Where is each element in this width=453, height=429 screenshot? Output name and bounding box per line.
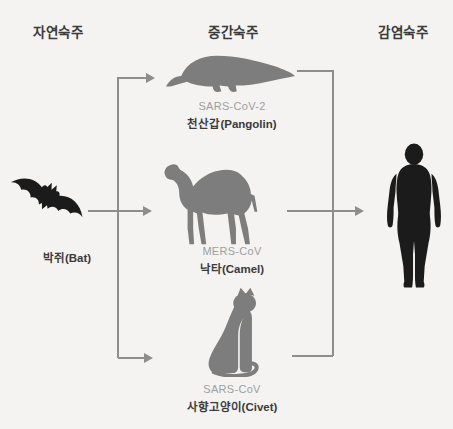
bat-icon	[0, 160, 95, 242]
arrowhead-to-camel-icon	[143, 206, 152, 216]
virus-host-diagram: 자연숙주 중간숙주 감염숙주 박쥐(Bat) SARS-CoV-2 천산갑(Pa…	[0, 0, 453, 429]
arrow-bat-to-pangolin	[118, 77, 146, 79]
civet-label: 사향고양이(Civet)	[160, 398, 304, 414]
pangolin-icon	[163, 51, 297, 97]
arrow-to-human	[287, 210, 355, 212]
column-header-infected-host: 감염숙주	[358, 21, 448, 41]
natural-host-label-block: 박쥐(Bat)	[27, 249, 107, 265]
arrow-bat-to-civet	[118, 357, 144, 359]
bat-label: 박쥐(Bat)	[27, 249, 107, 265]
arrow-bat-to-camel	[88, 210, 143, 212]
column-header-natural-host: 자연숙주	[13, 21, 103, 41]
arrowhead-to-human-icon	[355, 206, 364, 216]
virus-name-mers-cov: MERS-CoV	[160, 245, 304, 257]
connector-pangolin-branch	[297, 70, 333, 72]
virus-name-sars-cov: SARS-CoV	[160, 383, 304, 395]
column-header-intermediate-host: 중간숙주	[188, 21, 278, 41]
intermediate-host-civet-labels: SARS-CoV 사향고양이(Civet)	[160, 383, 304, 414]
intermediate-host-camel-labels: MERS-CoV 낙타(Camel)	[160, 245, 304, 276]
arrowhead-to-pangolin-icon	[146, 73, 155, 83]
civet-icon	[191, 286, 269, 377]
virus-name-sars-cov-2: SARS-CoV-2	[160, 100, 304, 112]
connector-right-vertical	[332, 70, 334, 356]
connector-civet-branch	[292, 355, 333, 357]
arrowhead-to-civet-icon	[144, 353, 153, 363]
intermediate-host-pangolin-labels: SARS-CoV-2 천산갑(Pangolin)	[160, 100, 304, 131]
human-icon	[379, 143, 449, 290]
pangolin-label: 천산갑(Pangolin)	[160, 115, 304, 131]
camel-label: 낙타(Camel)	[160, 260, 304, 276]
connector-left-vertical	[117, 77, 119, 358]
camel-icon	[158, 154, 286, 247]
